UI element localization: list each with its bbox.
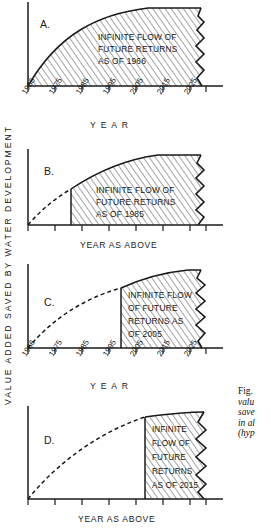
caption-line-1: Fig. <box>238 386 271 397</box>
x-axis-label-a: Y E A R <box>90 120 129 130</box>
hatched-region-d <box>18 404 233 529</box>
panel-b-svg: B. INFINITE FLOW OF FUTURE RETURNS AS OF… <box>18 145 233 255</box>
panel-b-text-line-2: FUTURE RETURNS <box>96 197 176 207</box>
panel-a-svg: A. INFINITE FLOW OF FUTURE RETURNS AS OF… <box>18 0 233 132</box>
realized-curve-d <box>28 417 145 499</box>
panel-c: C. INFINITE FLOW OF FUTURE RETURNS AS OF… <box>18 262 233 392</box>
panel-a-text-line-1: INFINITE FLOW OF <box>98 32 177 42</box>
panel-a: A. INFINITE FLOW OF FUTURE RETURNS AS OF… <box>18 0 233 132</box>
panel-d-text-line-1: INFINITE <box>152 425 187 434</box>
panel-b-text-line-1: INFINITE FLOW OF <box>96 185 175 195</box>
panel-letter-a: A. <box>40 18 50 30</box>
x-ticks-d <box>28 499 206 505</box>
panel-a-text-line-2: FUTURE RETURNS <box>98 44 178 54</box>
panel-d-text-line-4: RETURNS <box>152 467 193 476</box>
panel-c-text-line-1: INFINITE FLOW <box>128 290 192 300</box>
x-axis-label-c: Y E A R <box>90 381 129 391</box>
panel-letter-b: B. <box>44 165 54 177</box>
figure-container: VALUE ADDED SAVED BY WATER DEVELOPMENT <box>0 0 271 529</box>
x-axis-label-d: YEAR AS ABOVE <box>78 514 155 524</box>
y-axis-label: VALUE ADDED SAVED BY WATER DEVELOPMENT <box>0 0 17 529</box>
panel-c-text-line-4: OF 2005 <box>128 329 162 339</box>
panel-c-text-line-2: OF FUTURE <box>128 303 178 313</box>
panel-letter-d: D. <box>44 434 55 446</box>
x-axis-label-b: YEAR AS ABOVE <box>80 240 157 250</box>
panel-c-text-line-3: RETURNS AS <box>128 316 184 326</box>
panel-d-text-line-3: FUTURE <box>152 453 186 462</box>
figure-caption: Fig. valu save in al (hyp <box>238 386 271 439</box>
realized-curve-c <box>28 288 121 348</box>
panel-a-text-line-3: AS OF 1966 <box>98 56 146 66</box>
panel-d: D. INFINITE FLOW OF FUTURE RETURNS AS OF… <box>18 404 233 529</box>
caption-line-4: in al <box>238 418 271 429</box>
caption-line-5: (hyp <box>238 428 271 439</box>
y-axis-label-text: VALUE ADDED SAVED BY WATER DEVELOPMENT <box>3 125 13 405</box>
panel-d-text-line-2: FLOW OF <box>152 439 190 448</box>
panel-d-text-line-5: AS OF 2015 <box>152 481 198 490</box>
realized-curve-b <box>28 189 71 225</box>
x-ticks-b <box>28 225 206 231</box>
panel-letter-c: C. <box>44 296 55 308</box>
panel-b: B. INFINITE FLOW OF FUTURE RETURNS AS OF… <box>18 145 233 255</box>
caption-line-3: save <box>238 407 271 418</box>
panel-c-svg: C. INFINITE FLOW OF FUTURE RETURNS AS OF… <box>18 262 233 392</box>
panel-d-svg: D. INFINITE FLOW OF FUTURE RETURNS AS OF… <box>18 404 233 529</box>
caption-line-2: valu <box>238 397 271 408</box>
panel-b-text-line-3: AS OF 1985 <box>96 209 144 219</box>
